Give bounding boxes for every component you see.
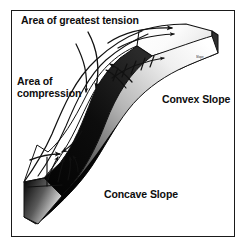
label-concave-slope: Concave Slope — [104, 188, 178, 200]
slope-diagram-canvas — [0, 0, 248, 249]
slope-diagram-figure: Area of greatest tension Area of compres… — [0, 0, 248, 249]
label-convex-slope: Convex Slope — [162, 93, 230, 105]
label-tiny-watermark: Slope — [196, 56, 204, 60]
label-area-of-compression-line1: Area of — [17, 75, 95, 87]
label-area-of-compression-line2: compression — [17, 87, 95, 99]
label-area-of-compression: Area of compression — [17, 75, 95, 100]
label-area-of-greatest-tension: Area of greatest tension — [21, 14, 139, 26]
